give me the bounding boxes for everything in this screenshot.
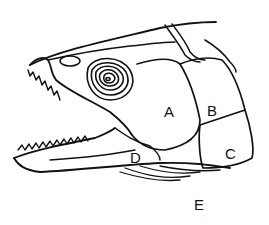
skull-line-drawing — [0, 0, 269, 225]
snout-upper — [30, 58, 132, 135]
fish-skull-diagram: A B C D E — [0, 0, 269, 225]
label-d: D — [130, 150, 141, 165]
upper-teeth — [28, 70, 60, 100]
lower-jaw-bottom — [14, 158, 230, 172]
lower-jaw-mid — [50, 150, 135, 160]
branchiostegal-ray-1 — [120, 172, 180, 181]
label-e: E — [194, 197, 204, 212]
branchiostegal-ray-3 — [140, 166, 200, 173]
lower-teeth — [18, 136, 88, 150]
lower-jaw-top — [14, 128, 115, 158]
label-c: C — [225, 146, 236, 161]
label-b: B — [207, 103, 217, 118]
orbital-center — [106, 78, 110, 81]
label-a: A — [164, 104, 174, 119]
supracleithrum — [205, 40, 236, 72]
nostril — [60, 56, 80, 66]
